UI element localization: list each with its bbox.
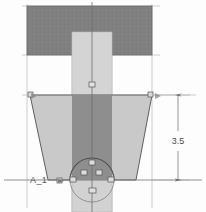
vertex-footing-top-right-marker[interactable]	[148, 92, 153, 97]
vertical-height-dimension[interactable]: 3.5	[152, 95, 190, 180]
vertex-anchor-left-marker[interactable]	[81, 170, 87, 175]
vertex-column-mid-marker[interactable]	[89, 82, 95, 87]
vertex-anchor-right-marker[interactable]	[96, 170, 102, 175]
cad-drawing-canvas: 3.5 A_1	[0, 0, 206, 212]
vertex-base-left-inner-marker[interactable]	[70, 177, 76, 182]
dimension-value-text: 3.5	[172, 136, 185, 146]
footing-top-right-arrow-icon	[155, 93, 161, 99]
vertex-base-right-marker[interactable]	[108, 177, 114, 182]
cad-drawing-svg: 3.5 A_1	[0, 0, 206, 212]
datum-label-a1: A_1	[30, 175, 47, 185]
vertex-anchor-top-marker[interactable]	[89, 160, 95, 165]
vertex-base-center-marker[interactable]	[89, 188, 96, 193]
